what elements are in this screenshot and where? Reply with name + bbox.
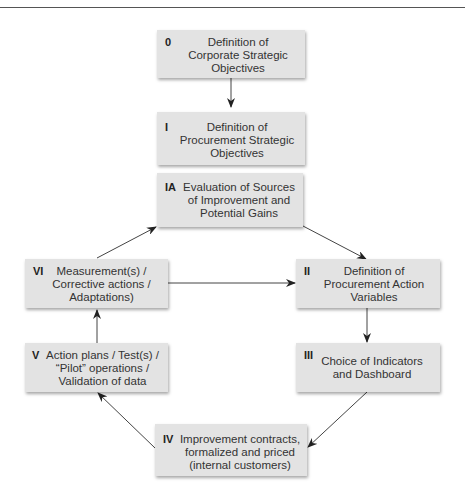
box-line: Objectives <box>169 147 305 160</box>
box-III-indicators-dashboard: III Choice of Indicators and Dashboard <box>296 343 440 392</box>
box-line: Improvement contracts, <box>173 433 307 446</box>
box-line: “Pilot” operations / <box>37 362 168 375</box>
box-line: Procurement Action <box>308 278 440 291</box>
box-line: Measurement(s) / <box>35 265 168 278</box>
box-line: Corporate Strategic <box>171 49 305 62</box>
box-line: Action plans / Test(s) / <box>37 349 168 362</box>
box-0-corporate-objectives: 0 Definition of Corporate Strategic Obje… <box>157 30 305 78</box>
box-text: Definition of Corporate Strategic Object… <box>171 36 305 75</box>
box-text: Action plans / Test(s) / “Pilot” operati… <box>37 349 168 388</box>
arrow-III-to-IV <box>308 392 367 447</box>
box-IV-improvement-contracts: IV Improvement contracts, formalized and… <box>155 424 307 476</box>
box-line: Definition of <box>171 36 305 49</box>
box-text: Evaluation of Sources of Improvement and… <box>175 181 303 220</box>
box-line: Variables <box>308 291 440 304</box>
box-line: Potential Gains <box>175 207 303 220</box>
box-I-procurement-objectives: I Definition of Procurement Strategic Ob… <box>157 112 305 165</box>
box-text: Choice of Indicators and Dashboard <box>304 355 440 381</box>
box-line: Adaptations) <box>35 291 168 304</box>
box-line: Objectives <box>171 62 305 75</box>
arrow-IV-to-V <box>98 393 155 448</box>
box-line: Choice of Indicators <box>304 355 440 368</box>
box-IA-evaluation-sources: IA Evaluation of Sources of Improvement … <box>157 173 303 227</box>
box-line: of Improvement and <box>175 194 303 207</box>
box-VI-measurement-corrective: VI Measurement(s) / Corrective actions /… <box>25 259 168 308</box>
box-V-action-plans: V Action plans / Test(s) / “Pilot” opera… <box>25 343 168 392</box>
box-line: Corrective actions / <box>35 278 168 291</box>
arrow-VI-to-IA <box>97 227 156 258</box>
arrow-IA-to-II <box>303 226 366 259</box>
box-text: Definition of Procurement Action Variabl… <box>308 265 440 304</box>
box-line: Definition of <box>308 265 440 278</box>
box-line: formalized and priced <box>173 446 307 459</box>
box-text: Definition of Procurement Strategic Obje… <box>169 121 305 160</box>
box-number: I <box>165 121 168 134</box>
box-text: Measurement(s) / Corrective actions / Ad… <box>35 265 168 304</box>
box-line: Definition of <box>169 121 305 134</box>
box-line: Evaluation of Sources <box>175 181 303 194</box>
box-line: Validation of data <box>37 375 168 388</box>
box-number: IV <box>163 433 173 446</box>
box-line: (internal customers) <box>173 459 307 472</box>
box-line: Procurement Strategic <box>169 134 305 147</box>
box-line: and Dashboard <box>304 368 440 381</box>
box-text: Improvement contracts, formalized and pr… <box>173 433 307 472</box>
box-II-procurement-action-variables: II Definition of Procurement Action Vari… <box>296 259 440 308</box>
